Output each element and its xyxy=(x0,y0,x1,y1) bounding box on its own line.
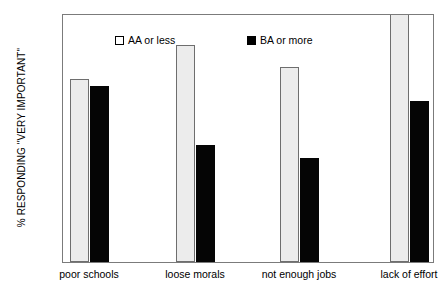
legend-item-ba-or-more: BA or more xyxy=(247,34,313,46)
legend-label-ba-or-more: BA or more xyxy=(260,34,313,46)
bar xyxy=(410,101,429,262)
bar xyxy=(196,145,215,262)
bar xyxy=(280,67,299,262)
dark-square-icon xyxy=(247,36,256,45)
bar-chart: % RESPONDING "VERY IMPORTANT" 0510152025… xyxy=(0,0,447,303)
x-axis-label: lack of effort xyxy=(380,268,437,280)
y-axis-title: % RESPONDING "VERY IMPORTANT" xyxy=(16,13,27,263)
bar-group xyxy=(390,15,430,262)
legend-label-aa-or-less: AA or less xyxy=(128,34,175,46)
plot-area: AA or less BA or more xyxy=(62,14,434,263)
x-axis-label: not enough jobs xyxy=(262,268,337,280)
bar-group xyxy=(70,15,110,262)
bar-group xyxy=(280,15,320,262)
light-square-icon xyxy=(115,36,124,45)
x-axis-label: poor schools xyxy=(59,268,119,280)
bar-group xyxy=(176,15,216,262)
bar xyxy=(176,45,195,262)
bar xyxy=(70,79,89,262)
bar xyxy=(90,86,109,262)
legend-item-aa-or-less: AA or less xyxy=(115,34,175,46)
x-axis-label: loose morals xyxy=(165,268,225,280)
bar xyxy=(390,14,409,262)
bar xyxy=(300,158,319,262)
